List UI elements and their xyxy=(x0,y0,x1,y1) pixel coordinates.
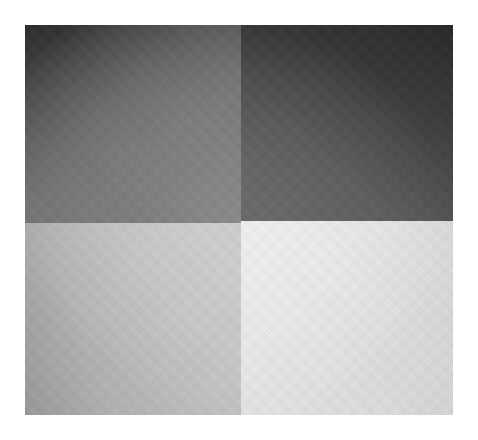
quadrant-bottom-right xyxy=(241,221,453,415)
quadrant-top-right xyxy=(241,25,453,221)
quadrant-photo xyxy=(25,25,453,415)
quadrant-top-left xyxy=(25,25,241,223)
quadrant-bottom-left xyxy=(25,223,241,415)
